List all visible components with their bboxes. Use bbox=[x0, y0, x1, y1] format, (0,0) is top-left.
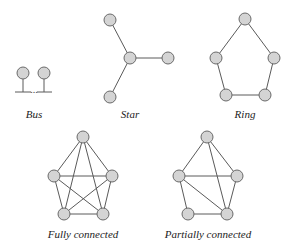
partially-connected-node bbox=[221, 208, 233, 220]
fully-connected-edge bbox=[83, 137, 112, 176]
bus-node bbox=[38, 67, 50, 79]
partially-connected-node bbox=[182, 208, 194, 220]
topology-ring: Ring bbox=[210, 13, 280, 120]
fully-connected-node bbox=[97, 208, 109, 220]
star-node bbox=[124, 52, 136, 64]
star-node bbox=[162, 52, 174, 64]
topology-star: Star bbox=[104, 14, 174, 120]
partially-connected-node bbox=[201, 131, 213, 143]
topology-bus: ... Bus bbox=[15, 67, 52, 120]
star-label: Star bbox=[121, 108, 140, 120]
topology-fully-connected: Fully connected bbox=[47, 131, 119, 240]
ring-edge bbox=[216, 19, 245, 58]
ring-node bbox=[220, 89, 232, 101]
network-topology-diagram: ... Bus Star Ring Fully connected Partia… bbox=[0, 0, 296, 248]
partially-connected-edge bbox=[207, 137, 237, 176]
star-edge bbox=[110, 58, 130, 97]
ring-label: Ring bbox=[234, 108, 256, 120]
ring-node bbox=[210, 52, 222, 64]
star-node bbox=[104, 14, 116, 26]
ring-edge bbox=[245, 19, 274, 58]
ring-node bbox=[259, 89, 271, 101]
bus-label: Bus bbox=[26, 108, 43, 120]
bus-ellipsis: ... bbox=[30, 84, 38, 95]
partially-connected-edge bbox=[179, 137, 207, 176]
fully-connected-node bbox=[106, 170, 118, 182]
topology-partially-connected: Partially connected bbox=[164, 131, 252, 240]
partially-connected-node bbox=[173, 170, 185, 182]
ring-node bbox=[239, 13, 251, 25]
partially-connected-label: Partially connected bbox=[164, 228, 252, 240]
fully-connected-node bbox=[58, 208, 70, 220]
bus-node bbox=[17, 67, 29, 79]
fully-connected-node bbox=[48, 170, 60, 182]
ring-node bbox=[268, 52, 280, 64]
fully-connected-label: Fully connected bbox=[47, 228, 119, 240]
fully-connected-node bbox=[77, 131, 89, 143]
star-node bbox=[104, 91, 116, 103]
partially-connected-node bbox=[231, 170, 243, 182]
